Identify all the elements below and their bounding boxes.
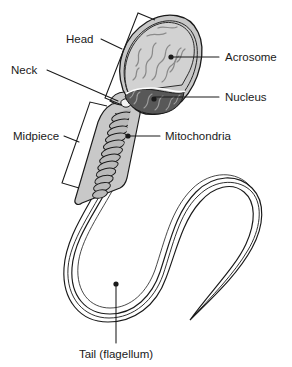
head-leader-line [101,39,122,49]
tail-leader-dot [113,281,118,286]
label-acrosome: Acrosome [225,51,277,63]
label-midpiece: Midpiece [13,130,59,142]
nucleus-leader-dot [151,96,156,101]
diagram-canvas: Head Neck Midpiece Acrosome Nucleus Mito… [0,0,292,367]
tail-inner-line-1 [68,180,259,320]
mitochondria-leader-dot [125,133,130,138]
label-neck: Neck [11,64,37,76]
label-mitochondria: Mitochondria [165,130,231,142]
label-nucleus: Nucleus [225,91,267,103]
head-group [120,15,202,114]
label-tail: Tail (flagellum) [79,348,153,360]
acrosome-leader-dot [168,54,173,59]
neck-leader-line [47,70,118,101]
sperm-cell-diagram: Head Neck Midpiece Acrosome Nucleus Mito… [0,0,292,367]
label-head: Head [66,33,94,45]
